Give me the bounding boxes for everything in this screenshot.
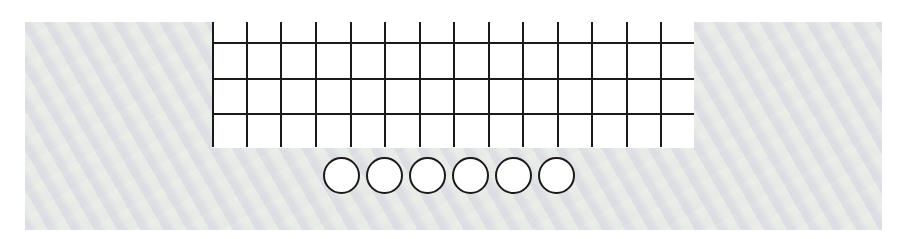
grid-vertical-line — [522, 22, 524, 147]
grid-vertical-line — [350, 22, 352, 147]
circle-slot-1[interactable] — [323, 157, 360, 194]
grid-vertical-line — [660, 22, 662, 147]
circle-slot-6[interactable] — [538, 157, 575, 194]
grid-vertical-line — [453, 22, 455, 147]
grid-vertical-line — [557, 22, 559, 147]
grid-vertical-line — [488, 22, 490, 147]
grid-vertical-line — [419, 22, 421, 147]
circle-slot-3[interactable] — [409, 157, 446, 194]
circle-slot-4[interactable] — [452, 157, 489, 194]
grid-horizontal-line — [212, 78, 694, 80]
grid-vertical-line — [246, 22, 248, 147]
grid-vertical-line — [384, 22, 386, 147]
circle-slot-2[interactable] — [366, 157, 403, 194]
grid-horizontal-line — [212, 113, 694, 115]
grid-vertical-line — [591, 22, 593, 147]
grid-horizontal-line — [212, 42, 694, 44]
circle-slot-5[interactable] — [495, 157, 532, 194]
grid-vertical-line — [280, 22, 282, 147]
grid-board[interactable] — [212, 22, 694, 148]
grid-vertical-line — [315, 22, 317, 147]
grid-vertical-line — [626, 22, 628, 147]
grid-vertical-line — [212, 22, 214, 147]
